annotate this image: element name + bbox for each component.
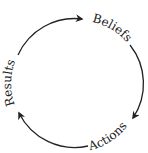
arrow-actions-to-results xyxy=(19,113,88,147)
arrow-beliefs-to-actions xyxy=(130,45,143,118)
node-label-beliefs: Beliefs xyxy=(91,11,135,44)
arrow-results-to-beliefs xyxy=(18,19,82,55)
cycle-diagram: Beliefs Actions Results xyxy=(0,0,148,153)
node-label-results: Results xyxy=(0,57,18,108)
node-label-actions: Actions xyxy=(86,119,130,153)
